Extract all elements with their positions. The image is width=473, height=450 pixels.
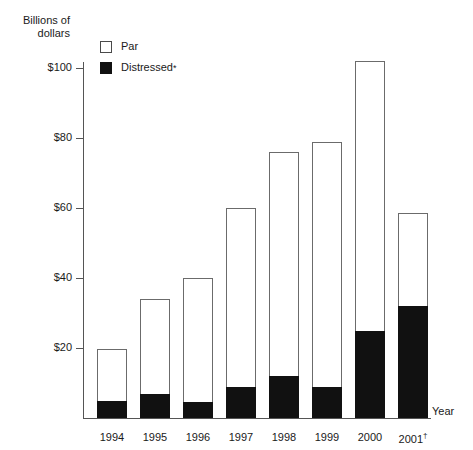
y-axis-tick: [76, 68, 84, 69]
open-square-swatch-icon: [100, 41, 112, 53]
y-axis-tick-label: $80: [12, 132, 72, 143]
bar-segment-distressed[interactable]: [226, 387, 256, 419]
stacked-bar-chart: Billions of dollars Year Par Distressed*…: [0, 0, 473, 450]
bar-group[interactable]: [226, 208, 256, 418]
bar-group[interactable]: [355, 61, 385, 418]
bar-segment-distressed[interactable]: [97, 401, 127, 419]
bar-series-area: [84, 60, 429, 418]
x-axis-label-text: 2001: [399, 433, 423, 445]
y-axis-tick: [76, 278, 84, 279]
bar-group[interactable]: [269, 152, 299, 418]
bar-segment-par[interactable]: [312, 142, 342, 419]
bar-group[interactable]: [183, 278, 213, 418]
bar-segment-distressed[interactable]: [355, 331, 385, 419]
x-axis-title: Year: [432, 405, 454, 418]
bar-group[interactable]: [97, 349, 127, 418]
legend-item-par: Par: [100, 38, 176, 55]
y-axis-tick: [76, 348, 84, 349]
bar-segment-distressed[interactable]: [269, 376, 299, 418]
legend-label-par: Par: [121, 41, 138, 52]
x-axis-label: 2001†: [385, 431, 441, 445]
x-axis-line: [83, 418, 431, 419]
y-axis-tick-label: $100: [12, 62, 72, 73]
bar-segment-par[interactable]: [183, 278, 213, 418]
y-axis-tick-label: $60: [12, 202, 72, 213]
bar-group[interactable]: [140, 299, 170, 418]
bar-group[interactable]: [398, 213, 428, 418]
y-axis-tick-label: $20: [12, 342, 72, 353]
bar-segment-distressed[interactable]: [398, 306, 428, 418]
y-axis-title: Billions of dollars: [8, 14, 70, 40]
y-axis-tick-label: $40: [12, 272, 72, 283]
x-axis-label-footnote-marker: †: [423, 431, 427, 440]
bar-segment-distressed[interactable]: [140, 394, 170, 419]
y-axis-tick: [76, 208, 84, 209]
bar-segment-distressed[interactable]: [312, 387, 342, 419]
bar-segment-distressed[interactable]: [183, 402, 213, 418]
y-axis-tick: [76, 138, 84, 139]
bar-group[interactable]: [312, 142, 342, 419]
